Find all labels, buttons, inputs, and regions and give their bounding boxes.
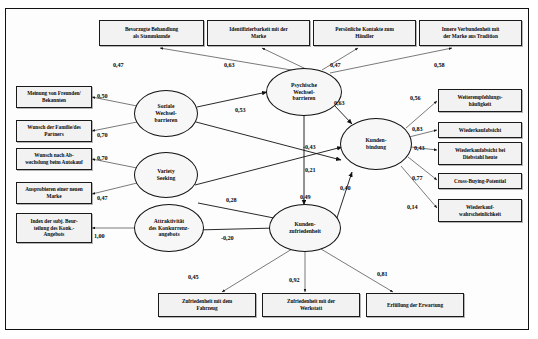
latent-line: Wechsel- — [155, 110, 176, 116]
latent-line: des Konkurrenz- — [149, 225, 189, 231]
loading-value: 0,47 — [97, 194, 107, 201]
path-coefficient: -0,43 — [303, 143, 315, 150]
latent-line: Attraktivität — [154, 218, 184, 224]
latent-line: Soziale — [158, 103, 175, 109]
indicator-line: Diebstahl heute — [463, 154, 497, 160]
indicator-line: Händler — [355, 33, 373, 39]
indicator-line: Werkstatt — [300, 305, 322, 311]
path-coefficient: -0,20 — [221, 234, 233, 241]
path-coefficient: 0,21 — [305, 166, 315, 173]
latent-line: Kunden- — [365, 137, 386, 143]
indicator-box: Zufriedenheit mit derWerkstatt — [262, 293, 360, 317]
indicator-line: Index der subj. Beur- — [30, 218, 77, 224]
latent-line: Variety — [157, 168, 175, 174]
indicator-line: Ausprobieren einer neuen — [25, 186, 82, 192]
indicator-line: Bekannten — [42, 97, 66, 103]
loading-value: 0,47 — [330, 61, 340, 68]
indicator-line: Fahrzeug — [196, 305, 217, 311]
indicator-line: Wiederkaufabsicht — [459, 127, 501, 134]
path-coefficient: 0,63 — [334, 99, 344, 106]
indicator-box: Wunsch nach Ab-wechslung beim Autokauf — [16, 148, 92, 170]
indicator-box: Innere Verbundenheit mitder Marke aus Tr… — [419, 20, 522, 46]
indicator-box: Bevorzugte Behandlungals Stammkunde — [99, 20, 204, 46]
latent-psychische-wechselbarrieren: PsychischeWechsel-barrieren — [266, 68, 342, 116]
indicator-line: Wunsch nach Ab- — [34, 152, 73, 158]
loading-value: 0,81 — [377, 270, 387, 277]
indicator-box: Ausprobieren einer neuenMarke — [16, 182, 92, 204]
loading-value: 0,43 — [414, 144, 424, 151]
latent-variety-seeking: VarietySeeking — [134, 152, 198, 198]
indicator-line: wechslung beim Autokauf — [25, 159, 82, 165]
latent-line: bindung — [366, 144, 386, 150]
loading-value: 0,92 — [289, 276, 299, 283]
indicator-box: Erfüllung der Erwartung — [366, 293, 464, 317]
indicator-line: Identifizierbarkeit mit der — [229, 26, 287, 32]
path-coefficient: 0,53 — [235, 106, 245, 113]
indicator-line: der Marke aus Tradition — [443, 33, 498, 39]
indicator-line: Erfüllung der Erwartung — [387, 302, 443, 309]
indicator-box: Wiederkaufabsicht beiDiebstahl heute — [438, 142, 522, 165]
diagram-canvas: Bevorzugte Behandlungals Stammkunde Iden… — [0, 0, 538, 339]
indicator-line: teilung des Konk.- — [34, 225, 74, 231]
indicator-line: als Stammkunde — [133, 33, 170, 39]
indicator-line: Innere Verbundenheit mit — [442, 26, 500, 32]
indicator-box: Identifizierbarkeit mit derMarke — [207, 20, 310, 46]
loading-value: 0,58 — [434, 61, 444, 68]
indicator-line: Meinung von Freunden/ — [27, 90, 81, 96]
indicator-box: Persönliche Kontakte zumHändler — [313, 20, 416, 46]
latent-line: barrieren — [293, 95, 316, 101]
indicator-box: Wiederkauf-wahrscheinlichkeit — [438, 199, 522, 222]
indicator-box: Wiederkaufabsicht — [438, 122, 522, 138]
indicator-line: Angebots — [44, 231, 65, 237]
indicator-line: Weiterempfehlungs- — [458, 94, 503, 100]
path-coefficient: 0,40 — [340, 184, 350, 191]
indicator-box: Cross-Buying-Potential — [438, 173, 522, 189]
indicator-line: Persönliche Kontakte zum — [335, 26, 394, 32]
latent-kundenzufriedenheit: Kunden-zufriedenheit — [269, 204, 341, 252]
indicator-box: Wunsch der Familie/desPartners — [16, 120, 92, 142]
latent-line: Seeking — [157, 175, 176, 181]
indicator-line: Wiederkaufabsicht bei — [455, 147, 505, 153]
latent-line: Kunden- — [294, 221, 315, 227]
loading-value: 0,14 — [407, 203, 417, 210]
indicator-line: Zufriedenheit mit der — [287, 298, 335, 304]
indicator-line: Bevorzugte Behandlung — [125, 26, 178, 32]
latent-line: angebots — [158, 231, 179, 237]
loading-value: 1,00 — [94, 232, 104, 239]
loading-value: 0,77 — [412, 174, 422, 181]
indicator-box: Meinung von Freunden/Bekannten — [16, 86, 92, 108]
indicator-line: Cross-Buying-Potential — [454, 178, 506, 185]
loading-value: 0,70 — [97, 131, 107, 138]
latent-line: zufriedenheit — [289, 228, 321, 234]
indicator-line: Zufriedenheit mit dem — [182, 298, 232, 304]
loading-value: 0,83 — [412, 125, 422, 132]
loading-value: 0,47 — [113, 61, 123, 68]
latent-line: Wechsel- — [293, 89, 314, 95]
latent-kundenbindung: Kunden-bindung — [340, 118, 412, 170]
latent-line: barrieren — [155, 117, 178, 123]
indicator-box: Index der subj. Beur-teilung des Konk.-A… — [16, 213, 92, 243]
latent-line: Psychische — [291, 82, 317, 88]
path-coefficient: 0,49 — [300, 193, 310, 200]
latent-soziale-wechselbarrieren: SozialeWechsel-barrieren — [134, 90, 198, 137]
latent-attraktivitaet-konkurrenzangebots: Attraktivitätdes Konkurrenz-angebots — [134, 204, 204, 252]
indicator-box: Zufriedenheit mit demFahrzeug — [158, 293, 256, 317]
indicator-line: Marke — [46, 193, 61, 199]
loading-value: 0,45 — [188, 273, 198, 280]
indicator-line: wahrscheinlichkeit — [459, 211, 501, 217]
indicator-line: Partners — [44, 131, 63, 137]
indicator-line: Wunsch der Familie/des — [27, 124, 80, 130]
indicator-line: häufigkeit — [469, 101, 491, 107]
loading-value: 0,50 — [97, 92, 107, 99]
path-coefficient: 0,28 — [226, 196, 236, 203]
indicator-line: Wiederkauf- — [466, 204, 494, 210]
loading-value: 0,70 — [97, 154, 107, 161]
loading-value: 0,63 — [224, 61, 234, 68]
loading-value: 0,56 — [410, 94, 420, 101]
indicator-box: Weiterempfehlungs-häufigkeit — [438, 89, 522, 112]
indicator-line: Marke — [251, 33, 266, 39]
